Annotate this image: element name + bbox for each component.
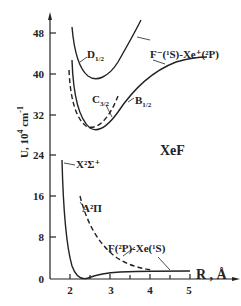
y-tick-32: 32 <box>33 109 45 121</box>
y-tick-48: 48 <box>33 27 45 39</box>
potential-energy-chart: 48 40 32 24 16 8 0 2 3 4 5 U, 104 cm-1 R… <box>0 0 241 306</box>
x-tick-3: 3 <box>108 284 114 296</box>
svg-text:U, 104 cm-1: U, 104 cm-1 <box>16 106 30 158</box>
label-A: A²Π <box>82 202 102 214</box>
label-upper-asymptote: F⁻(¹S)-Xe⁺(²P) <box>150 48 219 61</box>
x-tick-5: 5 <box>186 284 192 296</box>
y-tick-labels: 48 40 32 24 16 8 0 <box>33 27 45 285</box>
leader-lines <box>64 37 170 270</box>
y-tick-16: 16 <box>33 190 45 202</box>
y-tick-24: 24 <box>33 149 45 161</box>
label-X: X²Σ⁺ <box>76 158 100 170</box>
y-tick-40: 40 <box>33 68 45 80</box>
curve-D <box>72 20 141 79</box>
x-tick-2: 2 <box>67 284 73 296</box>
x-axis-label: R , Å <box>196 267 228 282</box>
x-tick-labels: 2 3 4 5 <box>67 284 192 296</box>
y-axis-label: U, 104 cm-1 <box>16 106 30 158</box>
y-tick-8: 8 <box>39 231 45 243</box>
label-B: B1/2 <box>135 94 152 109</box>
label-D: D1/2 <box>87 48 104 63</box>
x-tick-4: 4 <box>147 284 153 296</box>
label-C: C3/2 <box>92 93 109 108</box>
curve-X <box>62 160 190 279</box>
label-lower-asymptote: F(²P)-Xe(¹S) <box>108 242 166 255</box>
chart-title: XeF <box>160 143 185 158</box>
y-tick-0: 0 <box>39 273 45 285</box>
